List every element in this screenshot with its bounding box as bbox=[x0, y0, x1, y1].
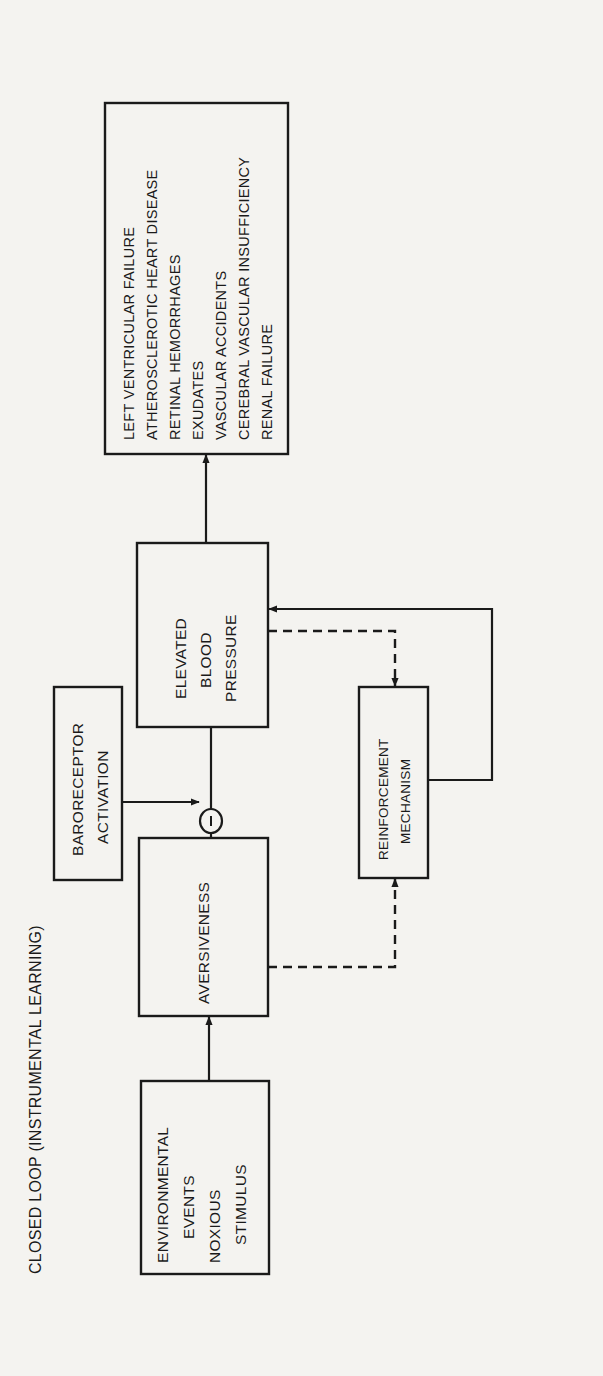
baroreceptor-line-2: ACTIVATION bbox=[94, 750, 111, 844]
baroreceptor-line-1: BARORECEPTOR bbox=[69, 723, 86, 856]
aversiveness-node: AVERSIVENESS bbox=[139, 838, 268, 1016]
environmental-line-4: STIMULUS bbox=[232, 1164, 249, 1245]
hypertension-outcomes-node: LEFT VENTRICULAR FAILURE ATHEROSCLEROTIC… bbox=[105, 103, 288, 454]
reinforcement-mechanism-node: REINFORCEMENT MECHANISM bbox=[359, 687, 428, 878]
elevated-bp-line-3: PRESSURE bbox=[222, 614, 239, 702]
outcome-item: RETINAL HEMORRHAGES bbox=[167, 254, 183, 440]
dashed-arrow-bp-to-reinforcement bbox=[268, 631, 395, 686]
environmental-events-node: ENVIRONMENTAL EVENTS NOXIOUS STIMULUS bbox=[141, 1081, 269, 1274]
closed-loop-diagram: CLOSED LOOP (INSTRUMENTAL LEARNING) ENVI… bbox=[0, 0, 603, 1376]
environmental-line-3: NOXIOUS bbox=[206, 1189, 223, 1263]
diagram-stage: CLOSED LOOP (INSTRUMENTAL LEARNING) ENVI… bbox=[0, 0, 603, 1376]
reinforcement-line-1: REINFORCEMENT bbox=[376, 738, 391, 860]
outcome-item: EXUDATES bbox=[190, 361, 206, 440]
diagram-title: CLOSED LOOP (INSTRUMENTAL LEARNING) bbox=[27, 925, 44, 1274]
outcome-item: VASCULAR ACCIDENTS bbox=[213, 270, 229, 440]
inhibition-node bbox=[200, 727, 222, 838]
elevated-bp-line-2: BLOOD bbox=[197, 632, 214, 688]
reinforcement-line-2: MECHANISM bbox=[398, 759, 413, 844]
dashed-arrow-aversiveness-to-reinforcement bbox=[268, 879, 395, 967]
environmental-line-1: ENVIRONMENTAL bbox=[154, 1127, 171, 1263]
elevated-blood-pressure-node: ELEVATED BLOOD PRESSURE bbox=[137, 543, 268, 727]
environmental-line-2: EVENTS bbox=[180, 1175, 197, 1239]
outcome-item: ATHEROSCLEROTIC HEART DISEASE bbox=[144, 169, 160, 440]
outcome-item: LEFT VENTRICULAR FAILURE bbox=[121, 227, 137, 440]
aversiveness-label: AVERSIVENESS bbox=[195, 882, 212, 1004]
elevated-bp-line-1: ELEVATED bbox=[172, 618, 189, 699]
baroreceptor-activation-node: BARORECEPTOR ACTIVATION bbox=[54, 687, 122, 880]
outcome-item: CEREBRAL VASCULAR INSUFFICIENCY bbox=[236, 157, 252, 440]
outcome-item: RENAL FAILURE bbox=[259, 324, 275, 440]
